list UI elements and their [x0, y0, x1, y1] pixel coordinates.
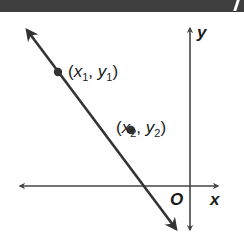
- point-2-label: (x2, y2): [116, 118, 166, 139]
- point-1-label: (x1, y1): [68, 62, 118, 83]
- coordinate-diagram: (x1, y1) (x2, y2) y O x: [0, 0, 244, 252]
- point-1-dot: [54, 68, 62, 76]
- origin-label: O: [170, 190, 183, 209]
- y-axis-label: y: [196, 23, 208, 42]
- x-axis-label: x: [209, 190, 221, 209]
